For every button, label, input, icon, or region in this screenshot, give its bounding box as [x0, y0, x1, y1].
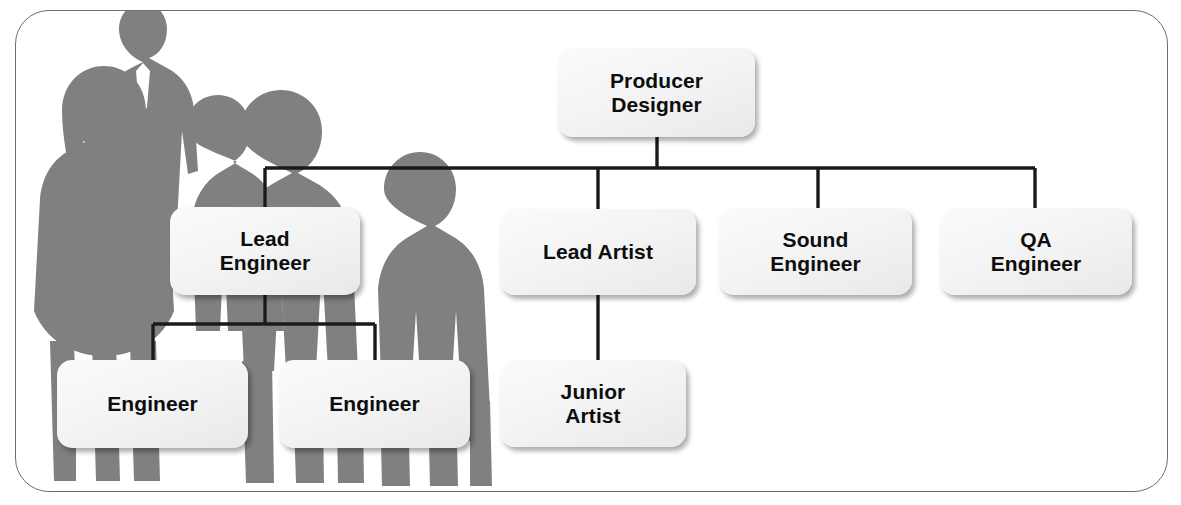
node-label-line: Engineer — [220, 251, 311, 275]
node-label-line: Engineer — [329, 392, 420, 416]
node-label-line: Junior — [561, 380, 626, 404]
node-producer-designer[interactable]: Producer Designer — [558, 48, 755, 137]
node-label-line: Engineer — [770, 252, 861, 276]
node-lead-engineer[interactable]: Lead Engineer — [170, 207, 360, 295]
node-junior-artist[interactable]: Junior Artist — [500, 360, 686, 447]
node-engineer-1[interactable]: Engineer — [57, 360, 248, 448]
node-engineer-2[interactable]: Engineer — [279, 360, 470, 448]
node-label-line: Sound — [770, 228, 861, 252]
node-label-line: Lead Artist — [543, 240, 653, 264]
node-lead-artist[interactable]: Lead Artist — [500, 209, 696, 295]
node-label-line: Engineer — [107, 392, 198, 416]
org-chart-diagram: Producer Designer Lead Engineer Lead Art… — [0, 0, 1181, 505]
node-label-line: Designer — [610, 93, 703, 117]
node-qa-engineer[interactable]: QA Engineer — [940, 208, 1132, 295]
node-label-line: Artist — [561, 404, 626, 428]
node-sound-engineer[interactable]: Sound Engineer — [719, 208, 912, 295]
node-label-line: Engineer — [991, 252, 1082, 276]
node-label-line: QA — [991, 228, 1082, 252]
node-label-line: Producer — [610, 69, 703, 93]
node-label-line: Lead — [220, 227, 311, 251]
